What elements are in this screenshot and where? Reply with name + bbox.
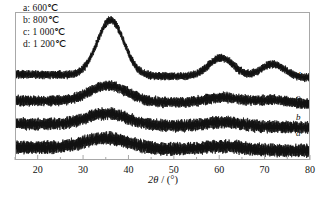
curve-tag-b: b [296, 112, 301, 122]
legend-entry-b: b: 800℃ [23, 14, 66, 26]
legend-entry-d: d: 1 200℃ [23, 38, 66, 50]
curve-tag-c: c [296, 92, 300, 102]
curve-tag-d: d [296, 70, 301, 80]
legend-entry-a: a: 600℃ [23, 2, 66, 14]
curve-c [16, 80, 309, 109]
curve-tag-a: a [296, 128, 301, 138]
x-axis-title-unit: / (°) [159, 174, 178, 185]
x-axis-title-symbol: 2θ [148, 174, 158, 185]
curve-b [16, 107, 309, 134]
x-axis-title: 2θ / (°) [0, 174, 326, 185]
legend: a: 600℃ b: 800℃ c: 1 000℃ d: 1 200℃ [23, 2, 66, 50]
curve-a [16, 131, 309, 158]
xrd-figure: a: 600℃ b: 800℃ c: 1 000℃ d: 1 200℃ d c … [0, 0, 326, 198]
legend-entry-c: c: 1 000℃ [23, 26, 66, 38]
